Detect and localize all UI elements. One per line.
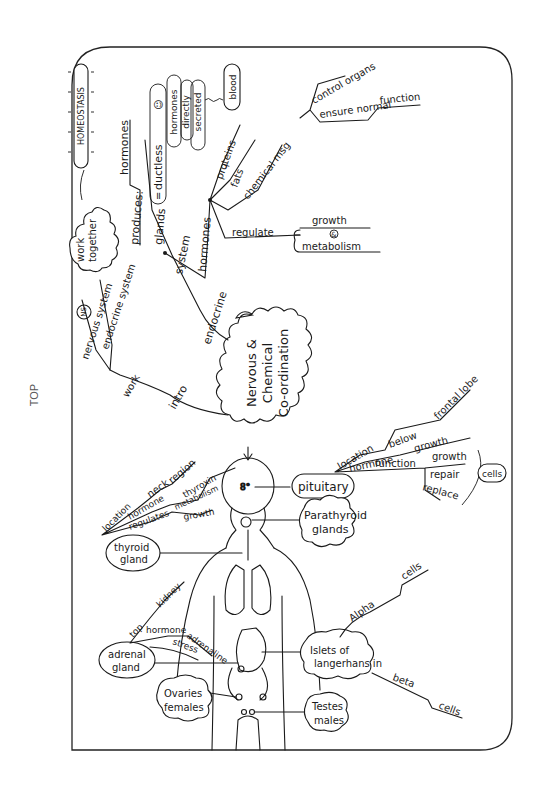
- thyroid-region-label: region: [166, 457, 197, 486]
- adrenal-line-1: adrenal: [108, 649, 146, 660]
- pituitary-function-label: function: [375, 458, 416, 469]
- parathyroid-line-2: glands: [312, 523, 349, 536]
- fats-label: fats: [229, 167, 246, 188]
- equals-sign: =: [153, 192, 164, 200]
- central-line-3: Co-ordination: [276, 329, 291, 417]
- work-together-2: together: [87, 218, 98, 262]
- central-line-1: Nervous &: [244, 339, 259, 407]
- pituitary-function-growth: growth: [432, 451, 467, 462]
- islets-node: Islets of langerhans in Alpha cells beta…: [262, 560, 462, 718]
- parathyroid-line-1: Parathyroid: [304, 509, 367, 522]
- adrenal-kidney-label: kidney: [154, 581, 183, 610]
- intro-label: intro: [166, 383, 190, 412]
- function-label: function: [379, 91, 421, 106]
- thyroid-growth-label: growth: [183, 507, 216, 522]
- secretion-line-1: hormones: [169, 89, 179, 134]
- pituitary-label: pituitary: [298, 480, 349, 494]
- ductless-label: ductless: [152, 144, 165, 190]
- blood-label: blood: [228, 75, 238, 100]
- endocrine-branch: endocrine system glands = ductless ☺ pro…: [118, 60, 421, 346]
- ovaries-line-1: Ovaries: [164, 688, 202, 699]
- secretion-line-3: secreted: [193, 93, 203, 132]
- thyroid-gland-node: thyroid gland location neck region hormo…: [100, 457, 242, 571]
- pituitary-function-repair: repair: [430, 469, 460, 480]
- thyroid-line-2: gland: [120, 554, 148, 565]
- ovaries-node: Ovaries females: [157, 675, 236, 721]
- islets-line-1: Islets of: [310, 645, 350, 656]
- produces-label: produces:: [128, 190, 146, 245]
- smiley-icon: ☺: [153, 100, 164, 110]
- adrenal-gland-node: adrenal gland top kidney hormone adrenal…: [99, 581, 238, 678]
- pituitary-frontal-lobe-label: frontal lobe: [432, 373, 480, 421]
- islets-alpha-cells-label: cells: [399, 560, 424, 582]
- top-label: TOP: [28, 384, 40, 406]
- secretion-line-2: directly: [181, 95, 191, 129]
- svg-text:8°: 8°: [240, 482, 250, 492]
- thyroid-line-1: thyroid: [114, 542, 149, 553]
- ovaries-line-2: females: [164, 702, 204, 713]
- hormones-label: hormones: [118, 120, 131, 175]
- chemical-msg-label: chemical msg: [241, 140, 292, 201]
- growth-label: growth: [312, 215, 347, 226]
- pituitary-cells-label: cells: [482, 469, 502, 479]
- work-together-1: work: [75, 238, 86, 262]
- regulate-label: regulate: [232, 227, 274, 238]
- islets-beta-cells-label: cells: [437, 700, 462, 718]
- islets-beta-label: beta: [391, 672, 416, 690]
- hormones-node-label: hormones: [196, 216, 214, 272]
- testes-line-1: Testes: [311, 701, 343, 712]
- adrenal-top-label: top: [127, 622, 145, 640]
- pituitary-function-replace: replace: [421, 481, 460, 501]
- central-topic: Nervous & Chemical Co-ordination: [216, 307, 311, 460]
- metabolism-label: metabolism: [302, 241, 361, 252]
- testes-node: Testes males: [255, 692, 348, 731]
- adrenal-hormone-label: hormone: [146, 625, 187, 635]
- ns-badge: NS: [80, 307, 88, 317]
- homeostasis-label: HOMEOSTASIS: [77, 87, 86, 145]
- thyroid-bubble: [106, 535, 160, 571]
- glands-label: glands: [152, 208, 168, 246]
- central-line-2: Chemical: [260, 343, 275, 403]
- and-sign: &: [331, 231, 337, 239]
- testes-line-2: males: [314, 715, 344, 726]
- system-label: system: [172, 234, 193, 276]
- adrenal-line-2: gland: [112, 662, 140, 673]
- mind-map-canvas: TOP Nervous & Chemical Co-ordination int…: [0, 0, 536, 795]
- islets-line-2: langerhans in: [314, 658, 382, 669]
